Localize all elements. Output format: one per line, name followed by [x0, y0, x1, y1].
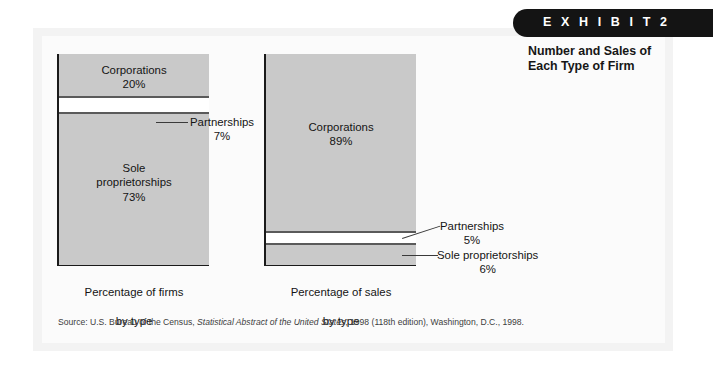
bar-column-firms: Corporations 20% Sole proprietorships 73…	[59, 54, 209, 266]
axis-caption-sales-line1: Percentage of sales	[256, 285, 426, 300]
source-italic-title: Statistical Abstract of the United State…	[197, 317, 345, 327]
bar-segment-corporations-sales-label: Corporations 89%	[266, 120, 416, 149]
callout-line-sole-sales	[402, 255, 438, 256]
partnerships-sales-name: Partnerships	[440, 220, 504, 232]
exhibit-tab-label: E X H I B I T 2	[543, 15, 670, 29]
partnerships-firms-name: Partnerships	[190, 116, 254, 128]
bar-segment-sole-sales	[266, 244, 416, 265]
partnerships-firms-pct: 7%	[190, 129, 254, 143]
bar-segment-corporations-firms: Corporations 20%	[59, 54, 209, 97]
axis-caption-sales: Percentage of sales by type	[256, 270, 426, 343]
bar-segment-sole-firms-label: Sole proprietorships 73%	[59, 161, 209, 204]
corporations-firms-pct: 20%	[123, 78, 146, 90]
bar-segment-corporations-sales: Corporations 89%	[266, 54, 416, 232]
bar-segment-partnerships-firms	[59, 97, 209, 113]
corporations-sales-name: Corporations	[308, 121, 373, 133]
bar-segment-corporations-firms-label: Corporations 20%	[59, 63, 209, 92]
sole-firms-name-line1: Sole	[123, 162, 146, 174]
sole-firms-pct: 73%	[123, 191, 146, 203]
bar-column-sales: Corporations 89%	[266, 54, 416, 266]
sole-sales-name: Sole proprietorships	[437, 249, 538, 261]
corporations-sales-pct: 89%	[330, 135, 353, 147]
sole-sales-pct: 6%	[437, 262, 538, 276]
callout-line-partnerships-firms	[156, 122, 188, 123]
sole-firms-name-line2: proprietorships	[96, 176, 171, 188]
axis-caption-firms: Percentage of firms by type	[49, 270, 219, 343]
partnerships-sales-pct: 5%	[440, 233, 504, 247]
bar-segment-partnerships-sales	[266, 232, 416, 244]
callout-partnerships-sales: Partnerships 5%	[440, 219, 504, 248]
source-prefix: Source: U.S. Bureau of the Census,	[58, 317, 197, 327]
corporations-firms-name: Corporations	[101, 64, 166, 76]
source-note: Source: U.S. Bureau of the Census, Stati…	[58, 316, 598, 328]
axis-caption-firms-line1: Percentage of firms	[49, 285, 219, 300]
exhibit-tab: E X H I B I T 2	[513, 9, 713, 37]
callout-sole-sales: Sole proprietorships 6%	[437, 248, 538, 277]
callout-partnerships-firms: Partnerships 7%	[190, 115, 254, 144]
source-suffix: , 1998 (118th edition), Washington, D.C.…	[345, 317, 524, 327]
bar-segment-sole-firms: Sole proprietorships 73%	[59, 113, 209, 265]
